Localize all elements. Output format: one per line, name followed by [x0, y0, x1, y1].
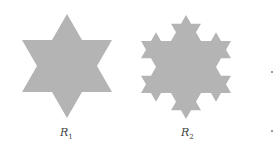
margin-dot — [271, 71, 273, 73]
r1-hexagram-shape — [22, 14, 112, 118]
r1-label: R1 — [60, 126, 73, 141]
r2-label: R2 — [181, 126, 194, 141]
r2-koch-snowflake-shape — [141, 15, 231, 119]
margin-dot — [271, 130, 273, 132]
figure-canvas — [0, 0, 275, 148]
